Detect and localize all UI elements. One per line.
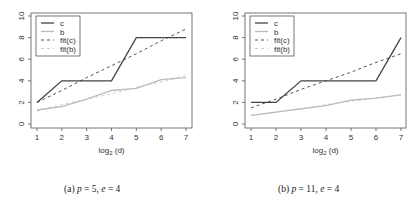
legend: cbfit(c)fit(b) — [250, 16, 294, 56]
y-tick-label: 8 — [17, 35, 26, 40]
x-tick-label: 3 — [84, 133, 89, 142]
legend: cbfit(c)fit(b) — [36, 16, 80, 56]
y-tick-label: 6 — [17, 56, 26, 61]
y-tick-label: 0 — [17, 121, 26, 126]
y-tick-label: 0 — [231, 121, 240, 126]
y-tick-label: 6 — [231, 56, 240, 61]
caption-a-e-value: 4 — [116, 184, 121, 194]
x-tick-label: 7 — [184, 133, 189, 142]
x-tick-label: 1 — [249, 133, 254, 142]
x-tick-label: 6 — [374, 133, 379, 142]
caption-a-label: (a) — [64, 184, 75, 194]
y-tick-label: 2 — [17, 100, 26, 105]
x-tick-label: 3 — [299, 133, 304, 142]
caption-a: (a) p = 5, e = 4 — [64, 184, 120, 194]
x-tick-label: 5 — [349, 133, 354, 142]
x-tick-label: 7 — [399, 133, 404, 142]
caption-b-e-value: 4 — [335, 184, 340, 194]
caption-b-p-value: 11 — [306, 184, 315, 194]
series-b — [251, 95, 401, 116]
x-tick-label: 4 — [324, 133, 329, 142]
caption-a-p-value: 5 — [92, 184, 97, 194]
caption-b-label: (b) — [278, 184, 289, 194]
y-tick-label: 8 — [231, 35, 240, 40]
x-axis-label: log2 (d) — [98, 146, 124, 156]
x-tick-label: 6 — [159, 133, 164, 142]
x-tick-label: 2 — [274, 133, 279, 142]
y-tick-label: 4 — [231, 78, 240, 83]
y-tick-label: 4 — [17, 78, 26, 83]
x-tick-label: 2 — [60, 133, 65, 142]
legend-label: fit(b) — [274, 45, 290, 54]
x-tick-label: 1 — [35, 133, 40, 142]
y-tick-label: 10 — [231, 11, 240, 20]
y-tick-label: 2 — [231, 100, 240, 105]
figure: 12345670246810log2 (d)cbfit(c)fit(b)1234… — [0, 0, 419, 220]
y-tick-label: 10 — [17, 11, 26, 20]
caption-b: (b) p = 11, e = 4 — [278, 184, 339, 194]
x-tick-label: 4 — [109, 133, 114, 142]
x-tick-label: 5 — [134, 133, 139, 142]
x-axis-label: log2 (d) — [312, 146, 338, 156]
chart-b: 12345670246810log2 (d)cbfit(c)fit(b) — [231, 11, 406, 156]
legend-label: fit(b) — [60, 45, 76, 54]
chart-a: 12345670246810log2 (d)cbfit(c)fit(b) — [17, 11, 192, 156]
